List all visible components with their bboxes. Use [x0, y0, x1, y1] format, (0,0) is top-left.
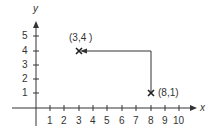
y-tick-label-3: 3: [22, 60, 28, 70]
x-tick-label-7: 7: [133, 116, 139, 126]
x-tick-label-6: 6: [119, 116, 125, 126]
y-tick-label-5: 5: [22, 31, 28, 41]
x-tick-label-2: 2: [61, 116, 67, 126]
y-axis-arrow-icon: [33, 21, 39, 28]
coordinate-plane: [0, 0, 215, 134]
path-line: [83, 51, 151, 93]
x-tick-label-3: 3: [76, 116, 82, 126]
y-tick-label-2: 2: [22, 74, 28, 84]
x-axis-arrow-icon: [190, 105, 197, 111]
point-label-3-4: (3,4 ): [69, 33, 92, 43]
y-axis-label: y: [33, 4, 38, 14]
x-tick-label-8: 8: [148, 116, 154, 126]
x-tick-label-4: 4: [90, 116, 96, 126]
y-tick-label-1: 1: [22, 88, 28, 98]
x-axis-label: x: [200, 103, 205, 113]
y-tick-label-4: 4: [22, 46, 28, 56]
x-tick-label-1: 1: [47, 116, 53, 126]
point-label-8-1: (8,1): [158, 88, 179, 98]
x-tick-label-9: 9: [162, 116, 168, 126]
x-tick-label-5: 5: [104, 116, 110, 126]
x-tick-label-10: 10: [173, 116, 184, 126]
